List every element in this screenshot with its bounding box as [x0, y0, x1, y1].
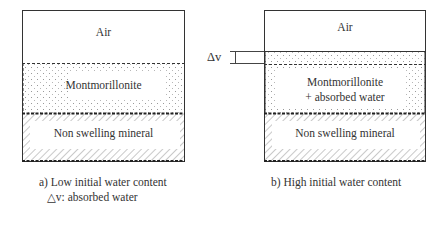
caption-a: a) Low initial water content: [39, 176, 167, 188]
delta-v-label: Δv: [207, 50, 221, 65]
montmorillonite-label-b: Montmorillonite: [264, 76, 426, 88]
air-label-b: Air: [264, 21, 426, 33]
air-label-a: Air: [22, 26, 185, 38]
delta-v-bracket: [230, 51, 264, 64]
caption-a-legend: △v: absorbed water: [47, 190, 138, 204]
non-swelling-label-b: Non swelling mineral: [264, 127, 426, 139]
non-swelling-label-a: Non swelling mineral: [22, 127, 185, 139]
caption-b: b) High initial water content: [271, 176, 401, 188]
absorbed-water-label-b: + absorbed water: [264, 91, 426, 103]
montmorillonite-label-a: Montmorillonite: [22, 79, 185, 91]
